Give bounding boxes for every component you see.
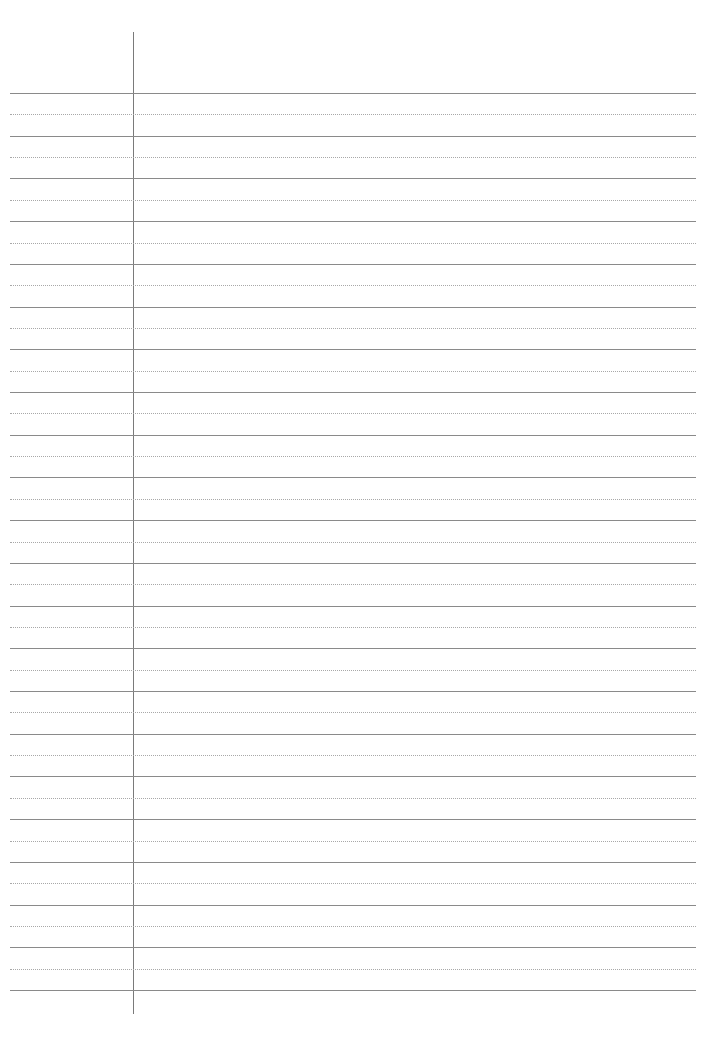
- ruled-line: [10, 862, 696, 863]
- ruled-line: [10, 435, 696, 436]
- dotted-guide-line: [10, 285, 696, 286]
- dotted-guide-line: [10, 755, 696, 756]
- dotted-guide-line: [10, 542, 696, 543]
- dotted-guide-line: [10, 841, 696, 842]
- ruled-line: [10, 606, 696, 607]
- ruled-line: [10, 947, 696, 948]
- ruled-line: [10, 776, 696, 777]
- ruled-line: [10, 307, 696, 308]
- dotted-guide-line: [10, 627, 696, 628]
- lined-paper-sheet: [0, 0, 716, 1056]
- dotted-guide-line: [10, 499, 696, 500]
- ruled-line: [10, 691, 696, 692]
- ruled-line: [10, 221, 696, 222]
- margin-line: [133, 32, 134, 1014]
- ruled-line: [10, 392, 696, 393]
- dotted-guide-line: [10, 883, 696, 884]
- ruled-line: [10, 178, 696, 179]
- dotted-guide-line: [10, 670, 696, 671]
- ruled-line: [10, 648, 696, 649]
- dotted-guide-line: [10, 712, 696, 713]
- dotted-guide-line: [10, 456, 696, 457]
- dotted-guide-line: [10, 200, 696, 201]
- ruled-line: [10, 990, 696, 991]
- dotted-guide-line: [10, 371, 696, 372]
- dotted-guide-line: [10, 584, 696, 585]
- ruled-line: [10, 819, 696, 820]
- dotted-guide-line: [10, 114, 696, 115]
- dotted-guide-line: [10, 798, 696, 799]
- dotted-guide-line: [10, 926, 696, 927]
- dotted-guide-line: [10, 243, 696, 244]
- dotted-guide-line: [10, 157, 696, 158]
- ruled-line: [10, 563, 696, 564]
- dotted-guide-line: [10, 413, 696, 414]
- ruled-line: [10, 734, 696, 735]
- ruled-line: [10, 520, 696, 521]
- ruled-line: [10, 349, 696, 350]
- dotted-guide-line: [10, 328, 696, 329]
- ruled-line: [10, 136, 696, 137]
- ruled-line: [10, 477, 696, 478]
- ruled-line: [10, 264, 696, 265]
- dotted-guide-line: [10, 969, 696, 970]
- ruled-line: [10, 93, 696, 94]
- ruled-line: [10, 905, 696, 906]
